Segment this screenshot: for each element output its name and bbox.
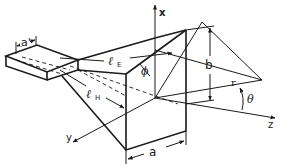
z-axis	[155, 98, 275, 118]
z-axis-label: z	[268, 119, 273, 130]
y-axis-label: y	[66, 132, 72, 143]
waveguide-width-label: a'	[21, 36, 31, 49]
horn-antenna-diagram: a' ℓ E ℓ H x y z	[0, 0, 289, 168]
x-axis-label: x	[159, 7, 166, 18]
radius-label: r	[231, 77, 236, 88]
coordinate-axes: x y z	[66, 5, 275, 143]
e-plane-length-subscript: E	[117, 61, 121, 69]
aperture-height-label: b	[205, 58, 213, 72]
e-plane-length-label: ℓ	[108, 54, 113, 68]
aperture-width-label: a	[149, 145, 156, 159]
h-plane-length-label: ℓ	[86, 87, 91, 101]
theta-label: θ	[247, 93, 254, 106]
h-plane-length-dimension: ℓ H	[60, 70, 124, 108]
h-plane-length-subscript: H	[95, 94, 100, 102]
phi-label: ϕ	[141, 65, 149, 78]
horn-body	[62, 30, 186, 150]
